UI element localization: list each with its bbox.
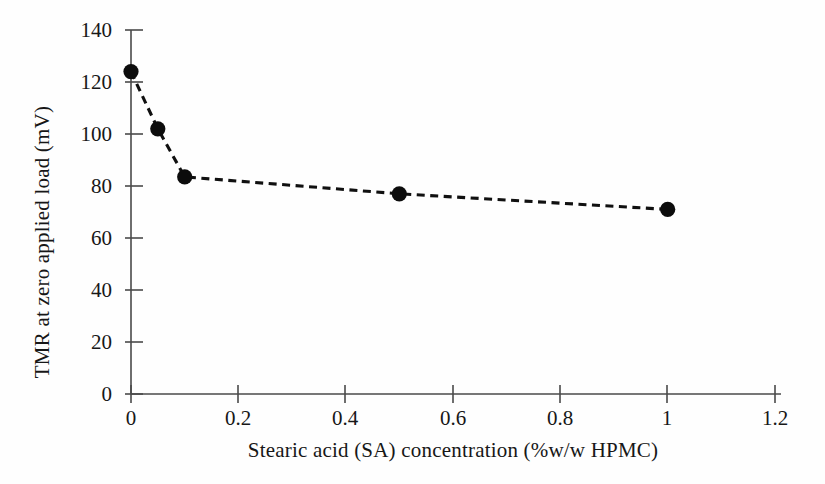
series-markers-tmr [123,64,675,217]
data-point-3 [392,186,407,201]
data-point-2 [177,169,192,184]
plot-area [0,0,825,484]
y-tick-marks [125,30,143,394]
data-point-0 [123,64,138,79]
chart-figure: TMR at zero applied load (mV) Stearic ac… [0,0,825,484]
data-point-1 [150,121,165,136]
data-point-4 [660,202,675,217]
